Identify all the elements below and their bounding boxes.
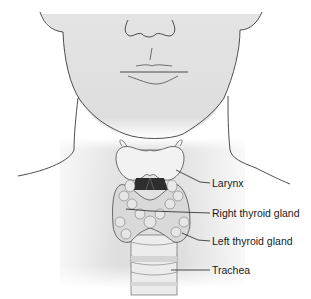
thyroid-diagram: Larynx Right thyroid gland Left thyroid … bbox=[0, 0, 311, 299]
label-left-thyroid-gland: Left thyroid gland bbox=[212, 236, 293, 247]
label-larynx: Larynx bbox=[212, 178, 244, 189]
label-right-thyroid-gland: Right thyroid gland bbox=[212, 208, 300, 219]
neck-illustration bbox=[0, 0, 311, 299]
label-trachea: Trachea bbox=[212, 265, 250, 276]
trachea bbox=[131, 235, 177, 295]
